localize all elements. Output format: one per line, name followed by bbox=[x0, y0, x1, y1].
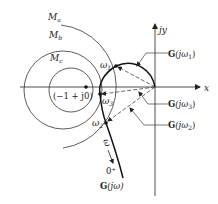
critical-point-label: (−1 + j0) bbox=[53, 91, 93, 101]
g-jw3-label: G(jω3) bbox=[168, 99, 195, 110]
x-axis-label: x bbox=[204, 83, 209, 93]
g-jw1-label: G(jω1) bbox=[168, 49, 195, 60]
omega2-label: ω2 bbox=[92, 118, 103, 129]
critical-point bbox=[84, 85, 88, 89]
vector-g-jw1 bbox=[118, 67, 155, 87]
m-circle-c bbox=[49, 68, 93, 112]
m-circle-c-label: Mc bbox=[49, 53, 63, 64]
leader-g-jw3 bbox=[139, 92, 168, 104]
g-jw-curve-label: G(jω) bbox=[100, 181, 123, 191]
nyquist-m-circles-diagram: x jy Ma Mb Mc (−1 + j0) ω1 ω3 ω2 G(jω1) … bbox=[0, 0, 218, 204]
omega-direction-label: ω bbox=[101, 137, 113, 148]
omega-direction-arrow bbox=[108, 150, 113, 163]
g-jw2-label: G(jω2) bbox=[168, 120, 195, 131]
m-circle-b-label: Mb bbox=[48, 30, 62, 41]
omega1-label: ω1 bbox=[100, 60, 111, 71]
zero-plus-label: 0⁺ bbox=[106, 166, 116, 176]
leader-g-jw2 bbox=[130, 108, 168, 125]
omega1-point bbox=[114, 64, 118, 68]
m-circle-b bbox=[24, 51, 102, 129]
omega3-label: ω3 bbox=[102, 96, 113, 107]
m-circle-a-label: Ma bbox=[47, 12, 61, 23]
y-axis-label: jy bbox=[157, 25, 168, 35]
omega2-point bbox=[104, 121, 108, 125]
leader-g-jw1 bbox=[137, 53, 168, 66]
